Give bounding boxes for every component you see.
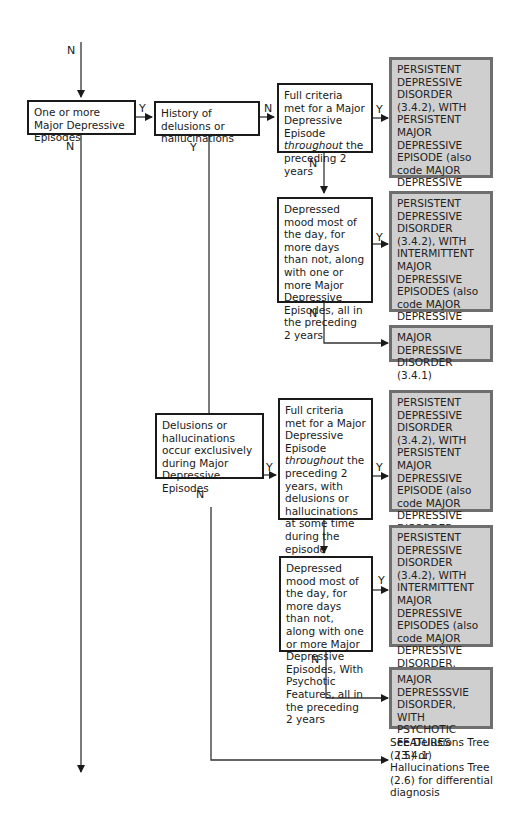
edge-label-full-criteria-psychotic-yes: Y [376,462,383,474]
edge-label-full-criteria-yes: Y [376,104,383,116]
diagnosis-pdd-persistent-mde: PERSISTENT DEPRESSIVE DISORDER (3.4.2), … [389,57,493,178]
node-full-criteria-mde: Full criteria met for a Major Depressive… [277,83,373,153]
diagnosis-pdd-intermittent-mde-psychotic: PERSISTENT DEPRESSIVE DISORDER (3.4.2), … [389,525,493,647]
node-history-delusions-hallucinations: History of delusions or hallucinations [154,101,260,136]
node-full-criteria-mde-psychotic: Full criteria met for a Major Depressive… [278,398,373,520]
node-text: History of delusions or hallucinations [161,107,234,144]
edge-label-history-no: N [264,103,272,115]
diagnosis-pdd-intermittent-mde: PERSISTENT DEPRESSIVE DISORDER (3.4.2), … [389,191,493,312]
edge-label-mde-yes: Y [139,103,146,115]
edge-label-depressed-mood-psychotic-yes: Y [378,575,385,587]
node-text-emphasis: throughout [285,454,344,466]
edge-label-delusions-exclusive-yes: Y [266,462,273,474]
edge-label-entry-no: N [67,45,75,57]
diagnosis-mdd-psychotic: MAJOR DEPRESSSVIE DISORDER, WITH PSYCHOT… [389,667,493,729]
referral-text: See Delusions Tree (2.5) or Hallucinatio… [390,736,493,798]
node-text: Depressed mood most of the day, for more… [286,562,364,725]
node-text-pre: Full criteria met for a Major Depressive… [285,404,366,454]
node-major-depressive-episodes: One or more Major Depressive Episodes [27,100,136,135]
node-text: Depressed mood most of the day, for more… [284,203,364,341]
node-depressed-mood: Depressed mood most of the day, for more… [277,197,373,303]
node-text-emphasis: throughout [284,139,343,151]
node-delusions-exclusive-during-mde: Delusions or hallucinations occur exclus… [155,413,264,479]
edge-label-depressed-mood-yes: Y [376,232,383,244]
node-text-pre: Full criteria met for a Major Depressive… [284,89,365,139]
diagnosis-pdd-persistent-mde-psychotic: PERSISTENT DEPRESSIVE DISORDER (3.4.2), … [389,390,493,512]
diagnosis-mdd: MAJOR DEPRESSIVE DISORDER (3.4.1) [389,325,493,362]
referral-note: See Delusions Tree (2.5) or Hallucinatio… [390,736,502,799]
node-depressed-mood-psychotic: Depressed mood most of the day, for more… [279,556,373,652]
